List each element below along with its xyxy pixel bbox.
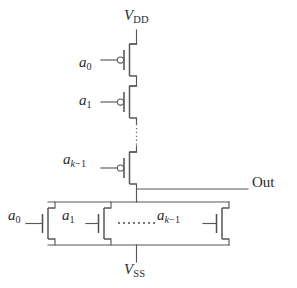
vdd-label: VDD [124,8,149,26]
pmos-series-ellipsis [130,118,137,152]
pmos-a1-subscript: 1 [87,99,92,110]
nmos-gate-label-ak-1: ak−1 [157,208,180,225]
pmos-a0-symbol: a [79,54,87,70]
nmos-a0-symbol: a [8,207,16,223]
pmos-gate-label-a0: a0 [79,55,92,72]
nmos-a0-subscript: 0 [16,214,21,225]
vdd-subscript: DD [133,14,149,25]
pmos-transistor-ak-1 [101,152,137,184]
nmos-parallel-ellipsis [118,222,155,224]
pmos-transistor-a1 [101,86,137,118]
nmos-ak-subscript-rest: −1 [169,214,180,225]
output-label: Out [252,175,275,190]
nmos-gate-label-a1: a1 [62,208,75,225]
pmos-gate-label-ak-1: ak−1 [63,152,86,169]
pmos-transistor-a0 [101,44,137,76]
nmos-gate-label-a0: a0 [8,208,21,225]
nmos-transistor-ak-1 [203,202,229,245]
output-node [137,184,249,202]
circuit-diagram: VDD VSS Out a0 a1 ak−1 a0 a1 ak−1 [0,0,297,288]
pmos-a0-subscript: 0 [87,61,92,72]
vdd-symbol: V [124,7,133,23]
vss-subscript: SS [133,268,145,279]
pmos-link-a0-a1 [130,76,137,86]
pmos-a1-symbol: a [79,92,87,108]
nmos-a1-symbol: a [62,207,70,223]
circuit-canvas [0,0,297,288]
vss-label: VSS [124,262,145,280]
nmos-transistor-a1 [86,202,111,245]
nmos-ak-symbol: a [157,207,165,223]
pmos-ak-subscript-rest: −1 [75,158,86,169]
vdd-rail [130,30,137,44]
pmos-ak-symbol: a [63,151,71,167]
vss-symbol: V [124,261,133,277]
pmos-gate-label-a1: a1 [79,93,92,110]
nmos-a1-subscript: 1 [70,214,75,225]
nmos-transistor-a0 [26,202,55,245]
